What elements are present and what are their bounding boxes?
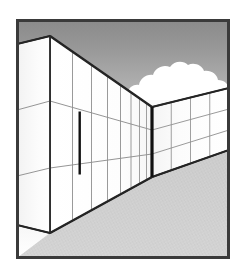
corner-post: [150, 107, 153, 177]
illustration-stage: Architectural Perspective Illustration t…: [0, 0, 246, 278]
architectural-perspective-illustration: [0, 0, 246, 278]
scene-content: [17, 20, 229, 258]
dark-mullion-stripe: [79, 112, 81, 175]
wall-left-return: [17, 36, 50, 233]
